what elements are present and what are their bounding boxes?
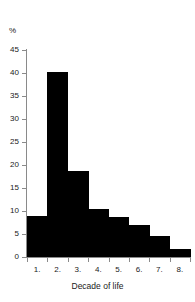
y-tick-label: 40 (1, 69, 19, 77)
x-tick-mark (109, 258, 110, 262)
x-tick-mark (149, 258, 150, 262)
histogram-bar (149, 236, 170, 257)
histogram-bar (109, 217, 130, 257)
x-tick-label: 1. (27, 265, 47, 274)
y-tick-label: 0 (1, 253, 19, 261)
x-tick-mark (170, 258, 171, 262)
x-tick-label: 3. (68, 265, 88, 274)
y-axis-unit-label: % (9, 26, 16, 35)
histogram-bar (68, 171, 89, 257)
x-tick-label: 2. (48, 265, 68, 274)
histogram-figure: % 051015202530354045 1.2.3.4.5.6.7.8. De… (0, 0, 195, 302)
y-tick-label: 15 (1, 184, 19, 192)
x-tick-label: 7. (149, 265, 169, 274)
x-tick-label: 8. (170, 265, 190, 274)
x-tick-mark (190, 258, 191, 262)
x-tick-mark (88, 258, 89, 262)
histogram-bar (47, 72, 68, 257)
x-tick-label: 4. (88, 265, 108, 274)
y-tick-label: 30 (1, 115, 19, 123)
x-tick-mark (68, 258, 69, 262)
x-tick-mark (129, 258, 130, 262)
y-tick-label: 25 (1, 138, 19, 146)
histogram-bar (88, 209, 109, 257)
histogram-bar (170, 249, 191, 257)
y-tick-label: 45 (1, 46, 19, 54)
y-tick-label: 20 (1, 161, 19, 169)
x-tick-label: 6. (129, 265, 149, 274)
x-tick-label: 5. (109, 265, 129, 274)
plot-area (27, 50, 190, 257)
x-axis-title: Decade of life (0, 281, 195, 291)
x-tick-mark (27, 258, 28, 262)
x-tick-mark (47, 258, 48, 262)
histogram-bar (129, 225, 150, 257)
y-tick-label: 35 (1, 92, 19, 100)
y-tick-label: 10 (1, 207, 19, 215)
y-tick-label: 5 (1, 230, 19, 238)
histogram-bar (27, 216, 48, 257)
